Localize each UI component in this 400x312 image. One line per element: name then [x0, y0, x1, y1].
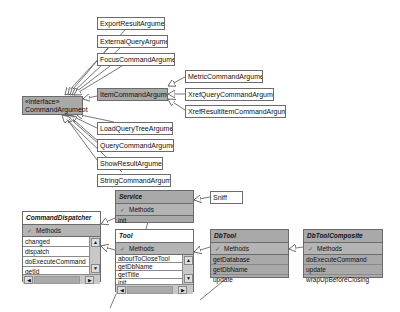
class-focus-command-argument[interactable]: FocusCommandArgument	[97, 53, 175, 66]
interface-stereotype: «interface»	[25, 98, 80, 106]
class-export-result-argument[interactable]: ExportResultArgument	[97, 17, 165, 30]
tool-methods-label: Methods	[129, 243, 154, 254]
class-db-tool-composite[interactable]: DbToolComposite ✓ Methods doExecuteComma…	[303, 229, 383, 278]
tool-methods-section[interactable]: ✓ Methods	[116, 243, 193, 255]
class-show-result-argument[interactable]: ShowResultArgument	[97, 157, 163, 170]
toggle-icon[interactable]: ✓	[215, 246, 221, 252]
scroll-down-icon[interactable]: ▼	[91, 264, 100, 273]
command-dispatcher-methods-label: Methods	[36, 225, 61, 236]
method-row[interactable]: update	[304, 265, 382, 275]
method-row[interactable]: doExecuteCommand	[304, 255, 382, 265]
scroll-left-icon[interactable]: ◀	[117, 286, 126, 294]
scroll-left-icon[interactable]: ◀	[24, 276, 33, 284]
method-row[interactable]: getDatabase	[211, 255, 288, 265]
method-row[interactable]: update	[211, 275, 288, 284]
scroll-up-icon[interactable]: ▲	[184, 256, 193, 265]
db-tool-methods-label: Methods	[224, 243, 249, 254]
tool-title: Tool	[116, 230, 193, 243]
method-row[interactable]: changed	[23, 237, 90, 247]
horizontal-scrollbar[interactable]: ◀ ▶	[116, 284, 193, 294]
scroll-down-icon[interactable]: ▼	[184, 274, 193, 283]
service-methods-label: Methods	[129, 204, 154, 215]
method-row[interactable]: wrapUpBeforeClosing	[304, 275, 382, 284]
class-xref-query-command-argument[interactable]: XrefQueryCommandArgument	[185, 88, 274, 101]
toggle-icon[interactable]: ✓	[308, 246, 314, 252]
service-title: Service	[116, 191, 193, 204]
class-service[interactable]: Service ✓ Methods init	[115, 190, 194, 223]
interface-command-argument[interactable]: «interface» CommandArgument	[22, 96, 83, 115]
db-tool-composite-methods-section[interactable]: ✓ Methods	[304, 243, 382, 255]
class-command-dispatcher[interactable]: CommandDispatcher ✓ Methods changed disp…	[22, 211, 101, 282]
class-tool[interactable]: Tool ✓ Methods aboutToCloseTool getDbNam…	[115, 229, 194, 292]
service-methods-section[interactable]: ✓ Methods	[116, 204, 193, 216]
scroll-right-icon[interactable]: ▶	[85, 276, 94, 284]
class-query-command-argument[interactable]: QueryCommandArgument	[97, 139, 174, 152]
method-row[interactable]: doExecuteCommand	[23, 257, 90, 267]
vertical-scrollbar[interactable]: ▲ ▼	[182, 255, 193, 284]
method-row[interactable]: aboutToCloseTool	[116, 255, 183, 263]
db-tool-composite-methods-label: Methods	[317, 243, 342, 254]
db-tool-title: DbTool	[211, 230, 288, 243]
db-tool-composite-title: DbToolComposite	[304, 230, 382, 243]
class-metric-command-argument[interactable]: MetricCommandArgument	[185, 70, 263, 83]
class-string-command-argument[interactable]: StringCommandArgument	[97, 174, 171, 187]
scroll-up-icon[interactable]: ▲	[91, 238, 100, 247]
vertical-scrollbar[interactable]: ▲ ▼	[89, 237, 100, 274]
method-row[interactable]: getDbName	[116, 263, 183, 271]
class-load-query-tree-argument[interactable]: LoadQueryTreeArgument	[97, 122, 173, 135]
toggle-icon[interactable]: ✓	[120, 246, 126, 252]
class-item-command-argument[interactable]: ItemCommandArgument	[97, 88, 168, 101]
service-method[interactable]: init	[116, 216, 193, 225]
scroll-right-icon[interactable]: ▶	[178, 286, 187, 294]
db-tool-methods-section[interactable]: ✓ Methods	[211, 243, 288, 255]
command-dispatcher-title: CommandDispatcher	[23, 212, 100, 225]
scroll-thumb[interactable]	[34, 276, 80, 284]
horizontal-scrollbar[interactable]: ◀ ▶	[23, 274, 100, 284]
class-sniff[interactable]: Sniff	[210, 191, 243, 204]
class-external-query-argument[interactable]: ExternalQueryArgument	[97, 35, 168, 48]
method-row[interactable]: getTitle	[116, 271, 183, 279]
toggle-icon[interactable]: ✓	[27, 228, 33, 234]
class-xref-result-item-command-argument[interactable]: XrefResultItemCommandArgument	[185, 105, 286, 118]
command-dispatcher-methods-section[interactable]: ✓ Methods	[23, 225, 100, 237]
method-row[interactable]: getDbName	[211, 265, 288, 275]
method-row[interactable]: dispatch	[23, 247, 90, 257]
interface-name: CommandArgument	[25, 106, 80, 114]
class-db-tool[interactable]: DbTool ✓ Methods getDatabase getDbName u…	[210, 229, 289, 278]
toggle-icon[interactable]: ✓	[120, 207, 126, 213]
scroll-thumb[interactable]	[127, 286, 173, 294]
